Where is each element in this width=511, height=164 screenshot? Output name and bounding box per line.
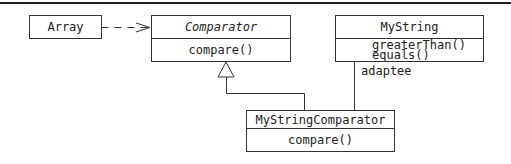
class-mystring-name: MyString xyxy=(381,20,439,34)
class-comparator: Comparator compare() xyxy=(152,16,291,62)
class-mystringcomparator-name: MyStringComparator xyxy=(255,113,385,127)
class-comparator-name: Comparator xyxy=(185,20,258,34)
class-array-name: Array xyxy=(47,20,83,34)
class-comparator-method: compare() xyxy=(188,43,253,57)
adaptee-label: adaptee xyxy=(361,64,412,78)
adaptee-association: adaptee xyxy=(355,62,412,111)
class-array: Array xyxy=(30,16,102,39)
class-mystringcomparator-method: compare() xyxy=(288,133,353,147)
dependency-arrow xyxy=(102,23,151,32)
class-mystring-method-equals: equals() xyxy=(372,48,430,62)
generalization-arrow xyxy=(218,62,305,110)
uml-diagram: Array Comparator compare() MyString grea… xyxy=(0,0,511,164)
class-mystring: MyString greaterThan() equals() xyxy=(336,16,484,63)
class-mystringcomparator: MyStringComparator compare() xyxy=(247,111,395,152)
